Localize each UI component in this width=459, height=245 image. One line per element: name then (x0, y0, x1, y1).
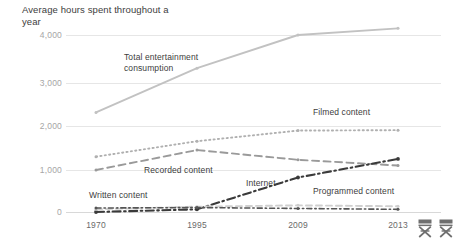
series-label-programmed-content: Programmed content (313, 186, 394, 197)
series-point (296, 176, 300, 180)
series-point (397, 27, 400, 30)
series-point (297, 129, 300, 132)
x-tick-label: 1995 (187, 220, 207, 230)
series-point (196, 149, 199, 152)
x-tick-label: 2013 (388, 220, 408, 230)
series-label-internet: Internet (246, 178, 276, 189)
series-point (95, 111, 98, 114)
plot-area (0, 0, 459, 245)
series-line-filmed-content (96, 130, 398, 157)
series-point (297, 34, 300, 37)
series-point (95, 168, 98, 171)
series-label-total-entertainment-consumption: Total entertainment consumption (124, 52, 198, 74)
x-tick-label: 2009 (288, 220, 308, 230)
series-point (397, 205, 400, 208)
series-point (297, 158, 300, 161)
series-point (397, 208, 400, 211)
series-point (396, 157, 400, 161)
chart-container: Average hours spent throughout a year 4,… (0, 0, 459, 245)
chair-icon-group (416, 218, 455, 238)
series-point (397, 164, 400, 167)
series-label-recorded-content: Recorded content (144, 165, 213, 176)
directors-chair-icon (416, 218, 434, 238)
series-point (95, 207, 98, 210)
series-point (297, 207, 300, 210)
series-label-filmed-content: Filmed content (313, 107, 370, 118)
x-tick-label: 1970 (86, 220, 106, 230)
series-point (297, 204, 300, 207)
series-label-written-content: Written content (89, 190, 148, 201)
series-point (196, 206, 199, 209)
series-point (95, 155, 98, 158)
series-point (196, 140, 199, 143)
series-point (397, 129, 400, 132)
directors-chair-icon (437, 218, 455, 238)
